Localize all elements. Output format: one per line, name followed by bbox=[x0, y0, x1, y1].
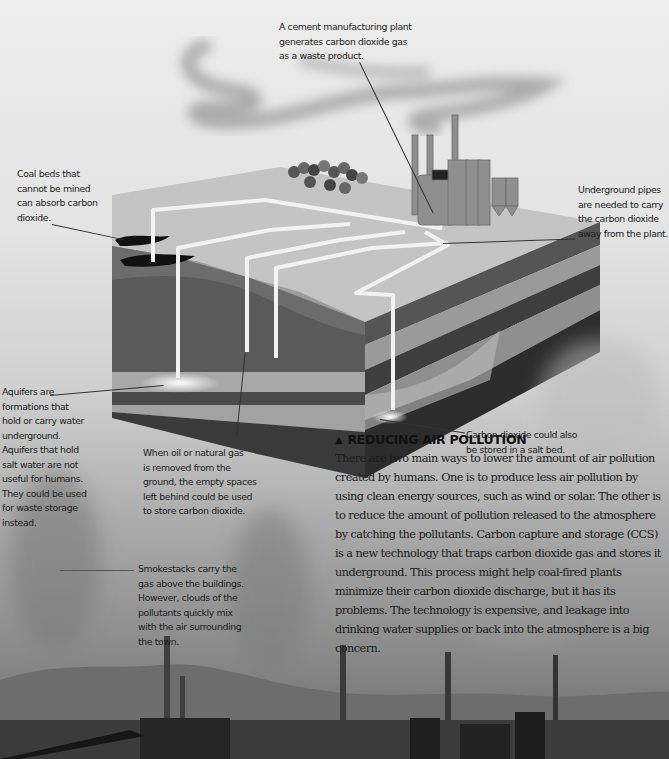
triangle-icon: ▲ bbox=[335, 434, 342, 445]
article-body: There are two main ways to lower the amo… bbox=[335, 449, 665, 658]
article-title-text: REDUCING AIR POLLUTION bbox=[347, 432, 526, 447]
leader-line-smokestacks bbox=[60, 570, 134, 571]
callout-coal-beds: Coal beds that cannot be mined can absor… bbox=[17, 167, 98, 225]
article: ▲ REDUCING AIR POLLUTION There are two m… bbox=[335, 432, 665, 658]
callout-smokestacks: Smokestacks carry the gas above the buil… bbox=[138, 562, 244, 649]
page: A cement manufacturing plant generates c… bbox=[0, 0, 669, 759]
callout-aquifers: Aquifers are formations that hold or car… bbox=[2, 385, 87, 530]
callout-cement-plant: A cement manufacturing plant generates c… bbox=[279, 20, 412, 64]
callout-oil-gas: When oil or natural gas is removed from … bbox=[143, 446, 257, 519]
article-title: ▲ REDUCING AIR POLLUTION bbox=[335, 432, 665, 447]
callout-pipes: Underground pipes are needed to carry th… bbox=[578, 183, 668, 241]
